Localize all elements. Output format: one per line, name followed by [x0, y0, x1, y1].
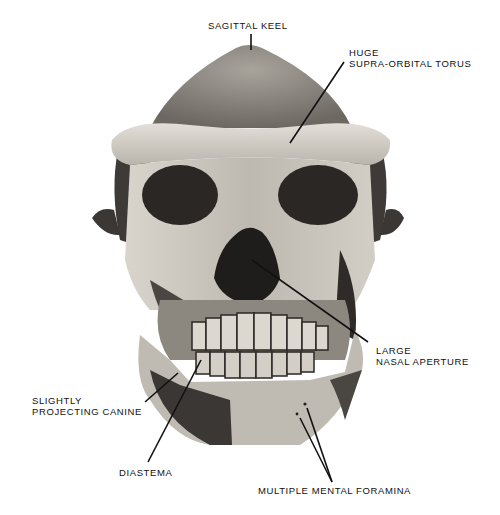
- label-nasal-aperture: LARGE NASAL APERTURE: [376, 345, 469, 367]
- left-orbit: [142, 165, 218, 225]
- label-mental-foramina: MULTIPLE MENTAL FORAMINA: [258, 485, 411, 496]
- mental-foramen: [303, 402, 306, 405]
- skull-illustration: [0, 0, 500, 515]
- cranium: [150, 45, 352, 128]
- mental-foramen: [296, 413, 299, 416]
- label-diastema: DIASTEMA: [119, 467, 172, 478]
- label-projecting-canine: SLIGHTLY PROJECTING CANINE: [32, 395, 142, 417]
- label-sagittal-keel: SAGITTAL KEEL: [208, 20, 288, 31]
- lower-teeth: [196, 352, 314, 378]
- label-supra-orbital-torus: HUGE SUPRA-ORBITAL TORUS: [349, 47, 471, 69]
- skull-diagram: SAGITTAL KEEL HUGE SUPRA-ORBITAL TORUS L…: [0, 0, 500, 515]
- left-zygomatic: [92, 209, 120, 235]
- right-orbit: [278, 165, 358, 225]
